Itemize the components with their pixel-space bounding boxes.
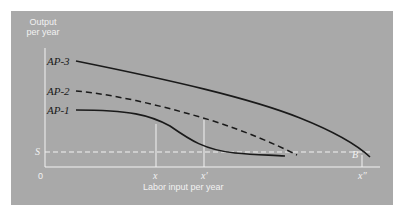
ap1-label: AP-1 (47, 104, 70, 116)
origin-label: 0 (38, 171, 43, 181)
b-label: B (352, 150, 358, 160)
x-prime-tick-label: x′ (201, 171, 208, 181)
ap1-curve (76, 110, 285, 156)
x-tick-label: x (153, 171, 157, 181)
s-label: S (35, 147, 40, 157)
x-double-prime-tick-label: x″ (358, 171, 367, 181)
ap2-curve (76, 91, 297, 155)
y-axis-label: Output per year (20, 17, 66, 37)
ap2-label: AP-2 (47, 85, 70, 97)
x-axis-label: Labor input per year (143, 182, 224, 192)
ap3-curve (76, 61, 370, 157)
ap3-label: AP-3 (47, 55, 70, 67)
